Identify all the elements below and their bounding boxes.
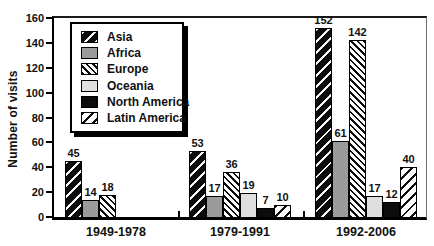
bar-value-label: 53: [182, 137, 213, 150]
legend-swatch-africa: [81, 47, 98, 59]
bar-value-label: 45: [58, 147, 89, 160]
legend-item: Asia: [81, 29, 182, 45]
legend-label: Oceania: [107, 79, 154, 93]
bar-asia: [315, 28, 332, 217]
legend-item: North America: [81, 94, 182, 110]
y-tick-mark: [46, 92, 52, 94]
y-tick-mark: [46, 191, 52, 193]
bar-africa: [206, 196, 223, 217]
bar-latin-america: [400, 167, 417, 217]
bar-chart: Number of visits AsiaAfricaEuropeOceania…: [0, 0, 434, 246]
legend-swatch-north-america: [81, 96, 98, 108]
legend-swatch-latin-america: [81, 112, 98, 124]
legend: AsiaAfricaEuropeOceaniaNorth AmericaLati…: [70, 22, 184, 133]
x-tick-mark: [303, 211, 305, 217]
legend-swatch-oceania: [81, 80, 98, 92]
x-tick-mark: [178, 211, 180, 217]
y-tick-mark: [46, 17, 52, 19]
x-axis-label: 1979-1991: [195, 225, 285, 239]
legend-label: Africa: [107, 46, 141, 60]
y-tick-label: 60: [0, 135, 44, 149]
y-tick-label: 80: [0, 111, 44, 125]
bar-value-label: 36: [216, 158, 247, 171]
bar-value-label: 142: [342, 26, 373, 39]
y-tick-mark: [46, 67, 52, 69]
y-tick-label: 20: [0, 185, 44, 199]
y-tick-mark: [46, 117, 52, 119]
legend-item: Latin America: [81, 110, 182, 126]
bar-africa: [82, 200, 99, 217]
bar-north-america: [383, 202, 400, 217]
bar-latin-america: [274, 205, 291, 217]
bar-africa: [332, 141, 349, 217]
bar-value-label: 152: [308, 14, 339, 27]
legend-item: Europe: [81, 61, 182, 77]
x-axis-label: 1949-1978: [71, 225, 161, 239]
y-tick-mark: [46, 141, 52, 143]
y-tick-label: 120: [0, 61, 44, 75]
bar-value-label: 18: [92, 181, 123, 194]
legend-item: Oceania: [81, 78, 182, 94]
legend-label: Europe: [107, 62, 148, 76]
x-axis-label: 1992-2006: [321, 225, 411, 239]
y-tick-mark: [46, 42, 52, 44]
y-tick-label: 40: [0, 160, 44, 174]
y-tick-label: 160: [0, 11, 44, 25]
legend-swatch-asia: [81, 31, 98, 43]
y-tick-label: 140: [0, 36, 44, 50]
legend-label: North America: [107, 95, 189, 109]
y-tick-label: 0: [0, 210, 44, 224]
bar-north-america: [257, 208, 274, 217]
legend-item: Africa: [81, 45, 182, 61]
legend-label: Asia: [107, 30, 132, 44]
bar-europe: [99, 195, 116, 217]
bar-value-label: 19: [233, 179, 264, 192]
y-tick-label: 100: [0, 86, 44, 100]
legend-label: Latin America: [107, 111, 186, 125]
y-tick-mark: [46, 166, 52, 168]
bar-value-label: 40: [393, 153, 424, 166]
bar-value-label: 10: [267, 191, 298, 204]
legend-swatch-europe: [81, 63, 98, 75]
y-tick-mark: [46, 216, 52, 218]
